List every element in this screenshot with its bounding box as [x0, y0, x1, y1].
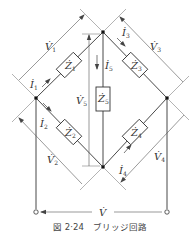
v4-arrow [121, 115, 184, 182]
impedance-z1: Ż1 [55, 51, 84, 80]
node-left [34, 96, 38, 100]
circuit-wires [36, 32, 167, 209]
terminal-right [165, 210, 169, 214]
label-v2: V̇2 [47, 154, 58, 166]
i3-arrow [117, 38, 125, 46]
label-i5: İ5 [104, 60, 113, 72]
voltage-arrows [19, 15, 184, 212]
bridge-circuit-diagram: Ż1 Ż3 Ż2 Ż4 Ż5 V̇1 İ1 İ3 V̇3 İ5 V̇5 İ2 V… [0, 0, 191, 234]
impedance-z5: Ż5 [96, 87, 110, 111]
label-i4: İ4 [118, 165, 127, 177]
label-v4: V̇4 [154, 151, 165, 163]
current-arrows [42, 38, 131, 153]
label-v3: V̇3 [150, 41, 161, 53]
i4-arrow [124, 145, 131, 153]
label-v5: V̇5 [76, 95, 87, 107]
label-v: V̇ [99, 207, 108, 218]
node-bottom [101, 165, 105, 169]
label-v1: V̇1 [45, 41, 56, 53]
label-i1: İ1 [29, 79, 38, 91]
figure-caption: 図 2·24 ブリッジ回路 [53, 222, 147, 232]
node-top [101, 30, 105, 34]
label-i2: İ2 [39, 118, 48, 130]
label-i3: İ3 [121, 27, 130, 39]
node-right [165, 96, 169, 100]
terminal-left [34, 210, 38, 214]
